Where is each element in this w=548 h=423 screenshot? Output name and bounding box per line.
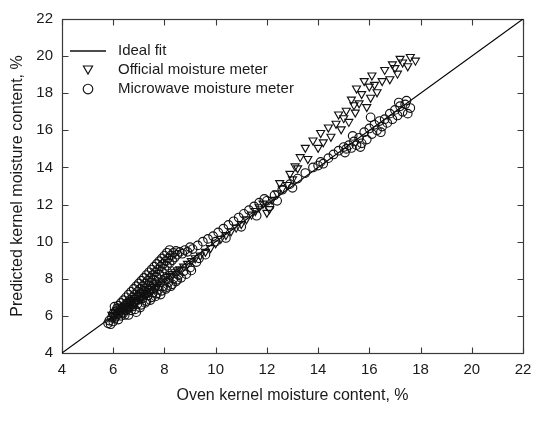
scatter-chart-figure: Oven kernel moisture content, % Predicte… [0,0,548,423]
plot-canvas [0,0,548,423]
